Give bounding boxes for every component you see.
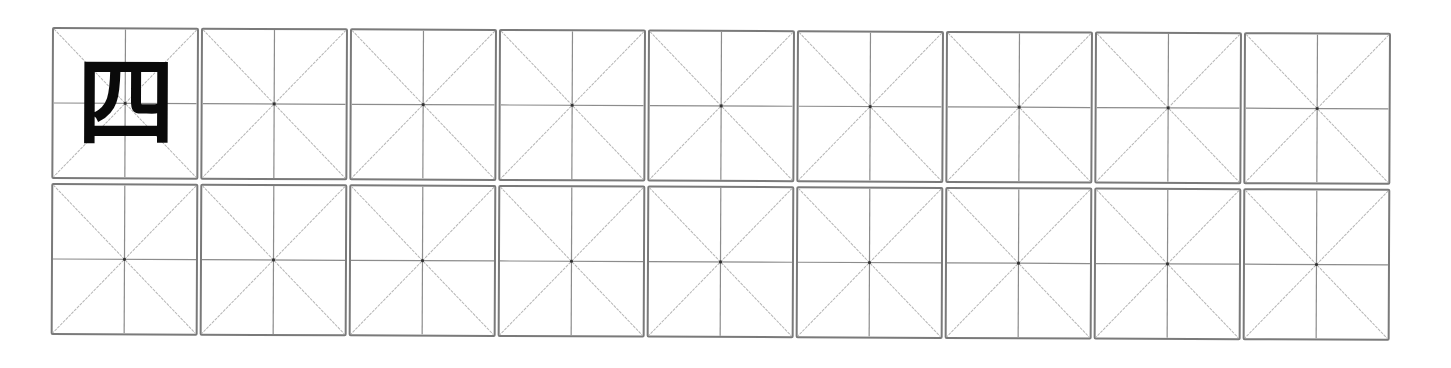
empty-practice-slot xyxy=(73,207,178,312)
empty-practice-slot xyxy=(1116,56,1221,161)
practice-cell xyxy=(349,28,497,181)
empty-practice-slot xyxy=(520,209,625,314)
grid-row-2 xyxy=(51,183,1391,341)
practice-cell xyxy=(1243,32,1391,185)
empty-practice-slot xyxy=(669,210,774,315)
empty-practice-slot xyxy=(818,54,923,159)
empty-practice-slot xyxy=(1265,56,1370,161)
empty-practice-slot xyxy=(222,52,327,157)
practice-cell xyxy=(200,28,348,181)
empty-practice-slot xyxy=(967,211,1072,316)
practice-cell xyxy=(51,183,199,336)
practice-cell xyxy=(498,185,646,338)
practice-cell xyxy=(1243,188,1391,341)
practice-sheet: 四 xyxy=(51,27,1414,347)
empty-practice-slot xyxy=(1265,212,1370,317)
empty-practice-slot xyxy=(967,55,1072,160)
empty-practice-slot xyxy=(222,208,327,313)
practice-cell xyxy=(1094,32,1242,185)
practice-cell: 四 xyxy=(51,27,199,180)
empty-practice-slot xyxy=(371,52,476,157)
empty-practice-slot xyxy=(818,210,923,315)
practice-cell xyxy=(945,31,1093,184)
practice-cell xyxy=(349,184,497,337)
practice-cell xyxy=(200,184,348,337)
practice-cell xyxy=(647,186,795,339)
practice-cell xyxy=(1094,188,1242,341)
empty-practice-slot xyxy=(520,53,625,158)
grid-row-1: 四 xyxy=(51,27,1391,185)
model-character: 四 xyxy=(73,51,178,156)
practice-cell xyxy=(796,186,944,339)
practice-cell xyxy=(498,29,646,182)
practice-cell xyxy=(945,187,1093,340)
empty-practice-slot xyxy=(669,54,774,159)
practice-cell xyxy=(796,30,944,183)
empty-practice-slot xyxy=(1116,212,1221,317)
empty-practice-slot xyxy=(371,208,476,313)
practice-cell xyxy=(647,30,795,183)
